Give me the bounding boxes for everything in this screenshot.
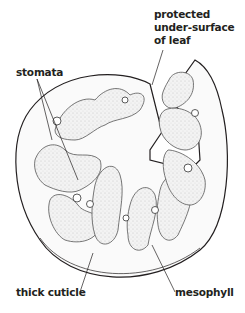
label-line: under-surface <box>154 21 234 34</box>
label-stomata: stomata <box>16 66 63 79</box>
leader-protected <box>152 50 163 85</box>
label-mesophyll: mesophyll <box>175 286 234 299</box>
label-line: of leaf <box>154 34 234 47</box>
label-protected-under-surface: protected under-surface of leaf <box>154 8 234 47</box>
label-line: protected <box>154 8 234 21</box>
label-thick-cuticle: thick cuticle <box>16 286 86 299</box>
